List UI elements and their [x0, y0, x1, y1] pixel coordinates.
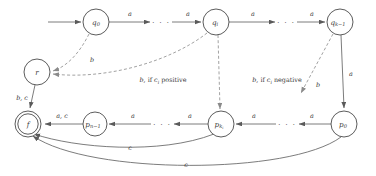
- condition-label-negative: b, if ci negative: [252, 76, 302, 84]
- edge-label-c-curve-2: c: [184, 161, 188, 169]
- ellipsis-top-2: · · ·: [277, 18, 295, 27]
- automaton-canvas: · · · · · · · · · · · · q0 qi qk−1 r: [0, 0, 376, 176]
- state-node-pki[interactable]: pki: [208, 111, 234, 137]
- edge-label-b-qk1-dashed: b: [316, 81, 320, 89]
- ellipsis-top-1: · · ·: [152, 18, 170, 27]
- state-node-pn-1[interactable]: pn−1: [83, 112, 107, 136]
- edge-label-c-curve-1: c: [128, 144, 132, 152]
- state-node-f-accepting[interactable]: f: [15, 111, 41, 137]
- edge-label-a-top-2: a: [186, 10, 190, 18]
- edge-qk1-to-p0: [341, 35, 344, 108]
- edge-label-b-q0-to-r: b: [90, 56, 94, 64]
- state-node-p0[interactable]: p0: [331, 111, 357, 137]
- edge-q0-to-r-dashed: [53, 34, 89, 71]
- state-node-q0[interactable]: q0: [83, 9, 109, 35]
- edge-label-a-top-1: a: [128, 10, 132, 18]
- dashed-transitions-group: [53, 33, 333, 109]
- vertical-transitions-group: [30, 35, 344, 108]
- automaton-diagram: · · · · · · · · · · · · q0 qi qk−1 r: [0, 0, 376, 176]
- edge-qi-to-pki-dashed: [218, 35, 220, 109]
- state-node-qk-1[interactable]: qk−1: [327, 9, 353, 35]
- edge-label-b-c-r-to-f: b, c: [16, 94, 28, 102]
- state-node-qi[interactable]: qi: [203, 9, 229, 35]
- edge-label-a-top-4: a: [310, 10, 314, 18]
- edge-label-a-qk1-to-p0: a: [349, 70, 353, 78]
- edge-label-a-bottom-2: a: [188, 112, 192, 120]
- condition-labels-group: b, if ci positive b, if ci negative: [140, 76, 302, 84]
- edge-r-to-f: [30, 85, 35, 108]
- state-label-r: r: [35, 68, 39, 77]
- ellipsis-bottom-1: · · ·: [153, 120, 171, 129]
- ellipsis-bottom-2: · · ·: [278, 120, 296, 129]
- edge-label-a-c-bottom: a, c: [56, 112, 68, 120]
- condition-label-positive: b, if ci positive: [140, 76, 187, 84]
- state-node-r[interactable]: r: [24, 59, 50, 85]
- edge-label-a-bottom-4: a: [310, 112, 314, 120]
- edge-label-a-top-3: a: [251, 10, 255, 18]
- edge-label-a-bottom-1: a: [131, 112, 135, 120]
- edge-label-a-bottom-3: a: [252, 112, 256, 120]
- edge-pki-to-f-curve: [34, 134, 214, 147]
